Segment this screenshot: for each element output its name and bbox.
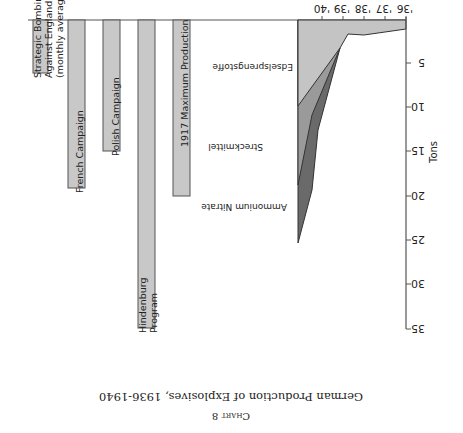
y-tick-10: 10 — [411, 100, 425, 113]
y-tick-labels: 5 10 15 20 25 30 35 — [411, 56, 425, 335]
label-edselsprengstoffe: Edselsprengstoffe — [212, 62, 293, 72]
chart-svg: 5 10 15 20 25 30 35 Tons '40 '39 '38 '37… — [0, 0, 463, 433]
x-tick-labels: '40 '39 '38 '37 '36 — [314, 3, 413, 15]
label-french-campaign: French Campaign — [74, 110, 85, 193]
caption: Chart 8 German Production of Explosives,… — [99, 390, 363, 422]
label-polish-campaign: Polish Campaign — [110, 77, 121, 156]
y-tick-35: 35 — [411, 322, 425, 335]
y-tick-30: 30 — [411, 277, 425, 290]
chart-page: 5 10 15 20 25 30 35 Tons '40 '39 '38 '37… — [0, 0, 463, 433]
caption-label: Chart 8 — [212, 411, 250, 422]
x-tick-36: '36 — [396, 3, 413, 15]
x-tick-40: '40 — [314, 3, 330, 15]
y-tick-5: 5 — [418, 56, 425, 69]
label-hindenburg-1: Hindenburg — [137, 277, 148, 333]
y-tick-25: 25 — [411, 233, 425, 246]
label-strategic-3: (monthly average) — [54, 0, 65, 78]
y-tick-20: 20 — [411, 189, 425, 202]
area-labels: Edselsprengstoffe Streckmittel Ammonium … — [201, 62, 293, 212]
label-streckmittel: Streckmittel — [208, 142, 263, 152]
y-tick-15: 15 — [411, 144, 425, 157]
label-strategic-1: Strategic Bombing Offensive — [32, 0, 43, 78]
x-tick-38: '38 — [355, 3, 371, 15]
x-tick-37: '37 — [376, 3, 392, 15]
label-ammonium-nitrate: Ammonium Nitrate — [201, 202, 287, 212]
label-1917-maximum: 1917 Maximum Production — [179, 19, 190, 147]
x-tick-39: '39 — [334, 3, 350, 15]
caption-title: German Production of Explosives, 1936-19… — [99, 390, 363, 404]
x-ticks — [322, 16, 406, 20]
label-strategic-2: Against England, Sep/Oct 1940 — [43, 0, 54, 78]
y-axis-title: Tons — [428, 141, 439, 164]
label-hindenburg-2: Program — [148, 293, 159, 333]
